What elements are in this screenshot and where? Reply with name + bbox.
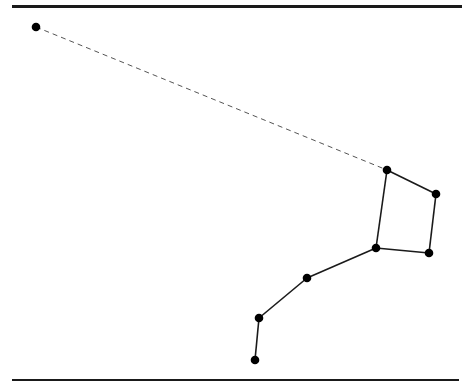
star-s7 (251, 356, 260, 365)
constellation-diagram (0, 0, 474, 391)
star-s0 (32, 23, 41, 32)
star-s4 (372, 244, 381, 253)
star-s3 (425, 249, 434, 258)
edge-s4-s5 (307, 248, 376, 278)
star-s1 (383, 166, 392, 175)
edge-s5-s6 (259, 278, 307, 318)
edge-s6-s7 (255, 318, 259, 360)
star-s5 (303, 274, 312, 283)
edge-s3-s4 (376, 248, 429, 253)
edge-s1-s2 (387, 170, 436, 194)
star-s6 (255, 314, 264, 323)
edge-s4-s1 (376, 170, 387, 248)
constellation-edges (36, 27, 436, 360)
star-s2 (432, 190, 441, 199)
edge-s2-s3 (429, 194, 436, 253)
constellation-stars (32, 23, 441, 365)
edge-s0-s1 (36, 27, 387, 170)
